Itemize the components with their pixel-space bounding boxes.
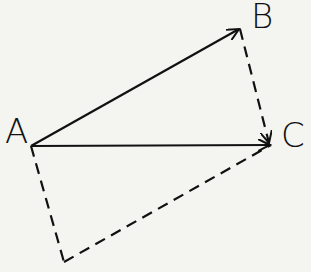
vector-b-to-c xyxy=(240,29,269,143)
vector-a-to-b xyxy=(31,29,239,146)
label-c: C xyxy=(281,115,305,155)
label-b: B xyxy=(251,0,273,36)
vector-diagram: A B C xyxy=(0,0,311,272)
vector-a-to-c xyxy=(31,145,270,146)
dashed-d-to-c xyxy=(64,145,271,262)
dashed-a-to-d xyxy=(31,146,64,262)
label-a: A xyxy=(5,111,28,151)
